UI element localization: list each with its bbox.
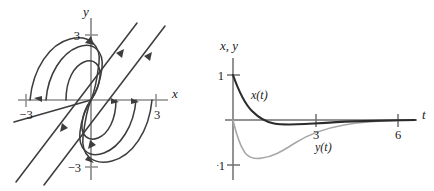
figure-container: y x 3 −3 −3 3	[0, 0, 434, 191]
phase-arrowhead-4	[88, 140, 96, 149]
phase-separatrix-2	[44, 26, 165, 185]
phase-tick-label-x-left: −3	[19, 108, 32, 122]
phase-tick-label-y-top: 3	[74, 29, 80, 43]
time-series-label-y: y(t)	[314, 140, 332, 154]
phase-arrowhead-5	[34, 96, 42, 102]
phase-tick-label-y-bottom: −3	[68, 161, 81, 175]
phase-tick-label-x-right: 3	[154, 108, 160, 122]
time-series-panel: x, y t 1 −1 3 6 x(t) y(t)	[217, 0, 434, 191]
time-tick-label-6: 6	[395, 128, 401, 142]
phase-arrowhead-1	[116, 49, 124, 58]
phase-arrowhead-3	[144, 52, 152, 61]
phase-arrowhead-6	[111, 98, 119, 104]
phase-y-axis-label: y	[81, 4, 89, 19]
phase-arrowhead-8	[85, 36, 94, 45]
time-tick-label-1: 1	[218, 69, 224, 83]
phase-arrowhead-2	[60, 123, 68, 132]
time-axes	[225, 58, 417, 180]
phase-x-axis-label: x	[171, 86, 178, 101]
phase-portrait-panel: y x 3 −3 −3 3	[0, 0, 217, 191]
time-value-axis-label: x, y	[219, 38, 238, 53]
time-tick-label-minus-1: −1	[217, 159, 225, 173]
time-series-label-x: x(t)	[250, 88, 268, 102]
time-t-axis-label: t	[422, 107, 426, 122]
